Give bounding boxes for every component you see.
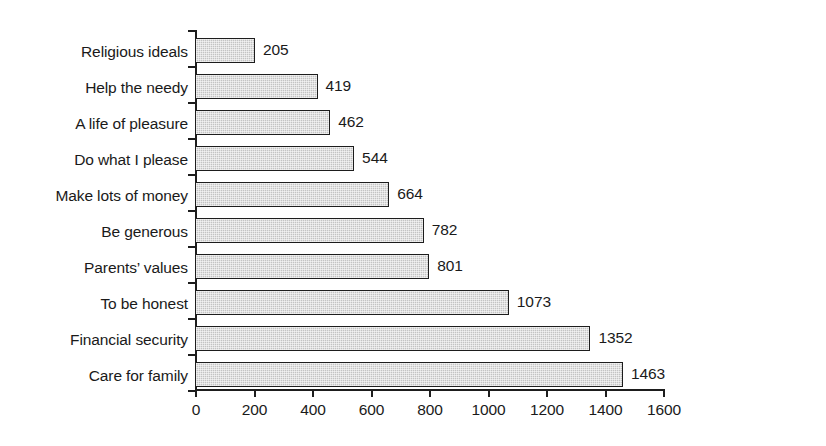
- bar: [195, 218, 424, 243]
- bar-value-label: 205: [263, 39, 289, 61]
- bar-value-label: 664: [397, 183, 423, 205]
- bar-value-label: 544: [362, 147, 388, 169]
- category-label: To be honest: [5, 296, 188, 312]
- bar-row: To be honest1073: [195, 286, 663, 324]
- x-axis-tick-label: 1000: [471, 400, 505, 420]
- category-label: Make lots of money: [5, 188, 188, 204]
- bar: [195, 146, 354, 171]
- category-label: Do what I please: [5, 152, 188, 168]
- bar-value-label: 1073: [517, 291, 551, 313]
- bar-value-label: 782: [432, 219, 458, 241]
- x-axis-tick-label: 0: [192, 400, 201, 420]
- category-label: A life of pleasure: [5, 116, 188, 132]
- bar: [195, 290, 509, 315]
- bar: [195, 326, 590, 351]
- bar-row: Care for family1463: [195, 358, 663, 396]
- bar-value-label: 462: [338, 111, 364, 133]
- bar-row: Be generous782: [195, 214, 663, 252]
- category-label: Help the needy: [5, 80, 188, 96]
- bar: [195, 74, 318, 99]
- x-axis-tick-label: 600: [359, 400, 385, 420]
- bar: [195, 254, 429, 279]
- x-axis-tick-label: 1600: [647, 400, 681, 420]
- bar: [195, 110, 330, 135]
- category-label: Care for family: [5, 368, 188, 384]
- bar-value-label: 1352: [598, 327, 632, 349]
- bar-value-label: 419: [326, 75, 352, 97]
- x-axis-tick-label: 1200: [530, 400, 564, 420]
- bar: [195, 182, 389, 207]
- x-axis-tick: [663, 389, 665, 397]
- bar: [195, 362, 623, 387]
- bar-row: Help the needy419: [195, 70, 663, 108]
- category-label: Financial security: [5, 332, 188, 348]
- bar-value-label: 801: [437, 255, 463, 277]
- bar-row: Parents’ values801: [195, 250, 663, 288]
- x-axis-tick-label: 1400: [588, 400, 622, 420]
- bar: [195, 38, 255, 63]
- plot-area: Religious ideals205Help the needy419A li…: [195, 30, 663, 390]
- category-label: Be generous: [5, 224, 188, 240]
- x-axis-tick-label: 200: [242, 400, 268, 420]
- bar-row: A life of pleasure462: [195, 106, 663, 144]
- bar-row: Make lots of money664: [195, 178, 663, 216]
- x-axis-tick-label: 800: [417, 400, 443, 420]
- x-axis-tick-label: 400: [300, 400, 326, 420]
- bar-row: Religious ideals205: [195, 34, 663, 72]
- category-label: Parents’ values: [5, 260, 188, 276]
- bar-row: Financial security1352: [195, 322, 663, 360]
- category-label: Religious ideals: [5, 44, 188, 60]
- bar-chart: 02004006008001000120014001600 Religious …: [0, 0, 826, 446]
- bar-row: Do what I please544: [195, 142, 663, 180]
- bar-value-label: 1463: [631, 363, 665, 385]
